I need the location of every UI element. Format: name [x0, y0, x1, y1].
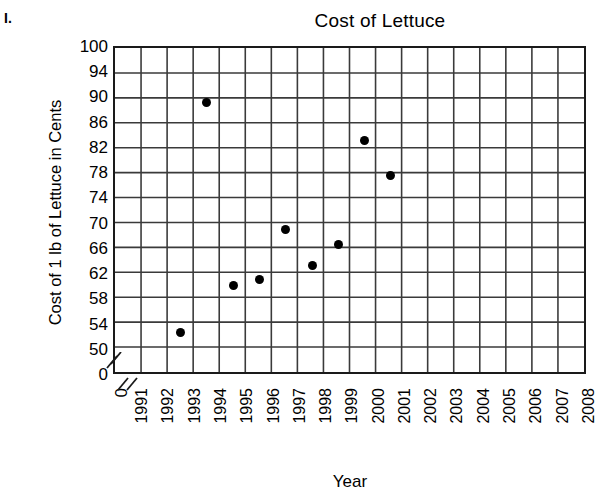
x-tick-label: 2000	[371, 388, 387, 424]
x-tick-label: 1992	[160, 388, 176, 424]
x-tick-label: 2007	[555, 388, 571, 424]
x-tick-label: 1993	[187, 388, 203, 424]
x-tick-label: 2008	[581, 388, 597, 424]
chart-figure: I. Cost of Lettuce Cost of 1 lb of Lettu…	[0, 0, 606, 498]
x-tick-label: 2004	[476, 388, 492, 424]
x-tick-label: 2002	[423, 388, 439, 424]
x-tick-label: 1996	[266, 388, 282, 424]
x-tick-label: 2006	[528, 388, 544, 424]
x-tick-label: 1994	[213, 388, 229, 424]
x-tick-label: 2001	[397, 388, 413, 424]
axis-break-icon	[96, 352, 156, 394]
x-tick-label: 1999	[344, 388, 360, 424]
x-tick-label: 2005	[502, 388, 518, 424]
x-tick-label: 1997	[292, 388, 308, 424]
x-tick-label: 1998	[318, 388, 334, 424]
x-tick-label: 1995	[239, 388, 255, 424]
x-axis-tick-labels: 0199119921993199419951996199719981999200…	[0, 0, 606, 498]
x-tick-label: 2003	[449, 388, 465, 424]
